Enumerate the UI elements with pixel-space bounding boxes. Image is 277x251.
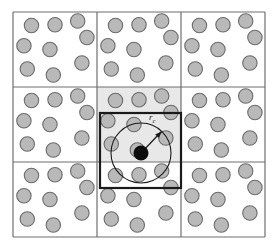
particle [24,18,38,32]
particle [185,39,199,53]
particle [127,42,141,56]
particle [211,117,225,131]
particle [20,212,34,226]
particle [188,212,202,226]
particle [24,168,38,182]
particle [43,117,57,131]
particle [104,212,118,226]
particle [214,218,228,232]
particle [46,143,60,157]
particle [43,42,57,56]
particle [127,117,141,131]
particle [243,206,257,220]
particle [211,42,225,56]
particle [130,218,144,232]
particle [216,93,230,107]
particle [80,105,94,119]
particle [80,30,94,44]
particle [154,164,168,178]
particle [101,114,115,128]
particle [17,189,31,203]
particle [127,192,141,206]
figure-root: rc [0,0,277,251]
particle [101,189,115,203]
particle [159,206,173,220]
particle [20,62,34,76]
tagged-particle [134,146,149,161]
particle [46,68,60,82]
particle [238,89,252,103]
particle [48,93,62,107]
particle [70,89,84,103]
particle [192,168,206,182]
particle [243,131,257,145]
particle [211,192,225,206]
cutoff-radius-subscript: c [153,117,156,124]
particle [243,56,257,70]
particle [238,14,252,28]
particle [192,18,206,32]
periodic-boundary-diagram: rc [0,0,277,251]
particle [130,68,144,82]
particle [248,30,262,44]
particle [192,93,206,107]
particle [214,143,228,157]
particle [75,206,89,220]
particle [248,105,262,119]
particle [48,18,62,32]
particle [159,56,173,70]
particle [46,218,60,232]
particle [104,62,118,76]
particle [48,168,62,182]
particle [108,93,122,107]
particle [75,56,89,70]
particle [70,164,84,178]
particle [132,18,146,32]
particle [214,68,228,82]
particle [24,93,38,107]
particle [248,180,262,194]
particle [20,137,34,151]
particle [164,30,178,44]
particle [154,14,168,28]
particle [154,89,168,103]
particle [17,39,31,53]
particle [238,164,252,178]
particle [185,189,199,203]
particle [216,168,230,182]
particle [188,137,202,151]
particle [132,93,146,107]
particle [17,114,31,128]
particle [75,131,89,145]
particle [101,39,115,53]
particle [216,18,230,32]
particle [80,180,94,194]
particle [43,192,57,206]
particle [132,168,146,182]
particle [70,14,84,28]
particle [185,114,199,128]
particle [108,18,122,32]
particle [188,62,202,76]
